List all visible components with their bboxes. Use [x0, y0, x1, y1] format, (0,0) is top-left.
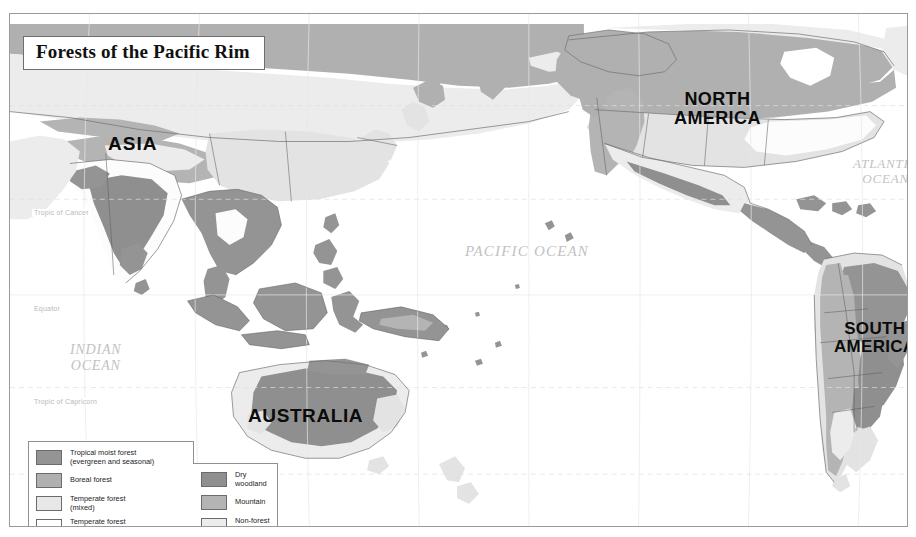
legend-item-temperate-forest-broadleaf: Temperate forest (broadleaf) [36, 515, 154, 527]
legend-column-right: Dry woodland Mountain Non-forest land [201, 468, 270, 527]
legend-label-boreal-forest: Boreal forest [70, 475, 112, 484]
legend-label-tropical-moist-forest: Tropical moist forest (evergreen and sea… [70, 448, 154, 467]
legend-swatch-tropical-moist-forest [36, 450, 62, 465]
continent-label-australia: AUSTRALIA [248, 406, 363, 426]
legend-swatch-temperate-forest-mixed [36, 496, 62, 511]
continent-label-asia: ASIA [108, 134, 157, 154]
legend-item-mountain: Mountain [201, 491, 270, 513]
ocean-label-indian: INDIAN OCEAN [70, 342, 121, 374]
map-title: Forests of the Pacific Rim [36, 41, 250, 63]
legend-item-tropical-moist-forest: Tropical moist forest (evergreen and sea… [36, 446, 154, 468]
map-frame: .f-ocean{fill:#ffffff} .f-nonforest{fill… [9, 13, 908, 527]
legend-column-left: Tropical moist forest (evergreen and sea… [36, 446, 154, 527]
legend-swatch-boreal-forest [36, 473, 62, 488]
legend-item-boreal-forest: Boreal forest [36, 469, 154, 491]
ocean-label-atlantic: ATLANTIC OCEAN [853, 157, 908, 187]
legend-label-mountain: Mountain [235, 497, 265, 506]
continent-label-south-america: SOUTH AMERICA [834, 320, 908, 355]
latitude-label-tropic-of-capricorn: Tropic of Capricorn [32, 398, 99, 405]
legend-label-temperate-forest-broadleaf: Temperate forest (broadleaf) [70, 517, 125, 527]
legend-swatch-temperate-forest-broadleaf [36, 519, 62, 528]
legend-swatch-dry-woodland [201, 472, 227, 487]
latitude-label-tropic-of-cancer: Tropic of Cancer [32, 209, 91, 216]
legend-item-non-forest-land: Non-forest land [201, 514, 270, 527]
legend-item-temperate-forest-mixed: Temperate forest (mixed) [36, 492, 154, 514]
map-legend: Tropical moist forest (evergreen and sea… [28, 441, 278, 527]
ocean-label-pacific: PACIFIC OCEAN [465, 243, 589, 260]
map-title-box: Forests of the Pacific Rim [23, 36, 265, 70]
legend-swatch-non-forest-land [201, 518, 227, 528]
legend-label-non-forest-land: Non-forest land [235, 516, 270, 527]
legend-divider [193, 441, 194, 464]
latitude-label-equator: Equator [32, 305, 62, 312]
legend-label-dry-woodland: Dry woodland [235, 470, 267, 489]
legend-item-dry-woodland: Dry woodland [201, 468, 270, 490]
map-screenshot: .f-ocean{fill:#ffffff} .f-nonforest{fill… [0, 0, 916, 537]
legend-swatch-mountain [201, 495, 227, 510]
legend-label-temperate-forest-mixed: Temperate forest (mixed) [70, 494, 125, 513]
continent-label-north-america: NORTH AMERICA [674, 90, 761, 127]
